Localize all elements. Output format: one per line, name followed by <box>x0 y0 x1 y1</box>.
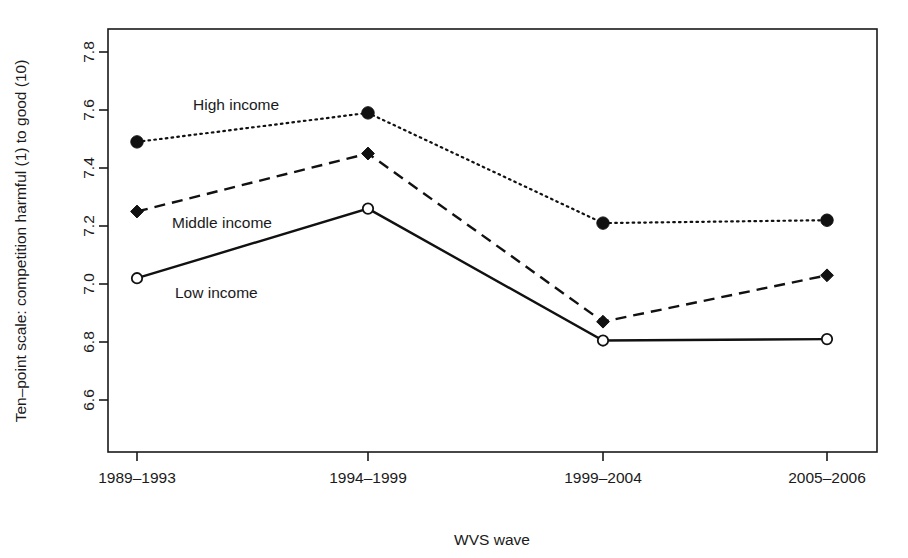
plot-area-border <box>108 29 877 452</box>
y-axis-ticks: 6.66.87.07.27.47.67.8 <box>80 41 109 411</box>
data-point-filled-diamond <box>131 205 144 218</box>
x-tick-label: 1994–1999 <box>329 469 407 486</box>
y-tick-label: 7.6 <box>80 99 97 121</box>
series-label: Middle income <box>172 214 272 231</box>
data-point-open-circle <box>598 335 608 345</box>
y-tick-label: 6.8 <box>80 331 97 353</box>
y-axis-title: Ten–point scale: competition harmful (1)… <box>12 60 29 423</box>
data-point-open-circle <box>132 273 142 283</box>
y-tick-label: 7.0 <box>80 273 97 295</box>
y-tick-label: 7.8 <box>80 41 97 63</box>
series-label: Low income <box>175 284 258 301</box>
data-point-filled-circle <box>597 217 609 229</box>
data-point-filled-diamond <box>597 315 610 328</box>
x-tick-label: 1989–1993 <box>98 469 176 486</box>
line-chart-canvas: 6.66.87.07.27.47.67.8 1989–19931994–1999… <box>0 0 908 558</box>
x-tick-label: 1999–2004 <box>564 469 642 486</box>
data-point-open-circle <box>822 334 832 344</box>
y-tick-label: 6.6 <box>80 389 97 411</box>
data-point-open-circle <box>363 203 373 213</box>
x-axis-title: WVS wave <box>454 531 530 548</box>
data-point-filled-circle <box>131 136 143 148</box>
chart-figure: 6.66.87.07.27.47.67.8 1989–19931994–1999… <box>0 0 908 558</box>
y-tick-label: 7.4 <box>80 157 97 179</box>
y-tick-label: 7.2 <box>80 215 97 237</box>
x-axis-ticks: 1989–19931994–19991999–20042005–2006 <box>98 452 866 486</box>
series-line <box>137 113 827 223</box>
x-tick-label: 2005–2006 <box>788 469 866 486</box>
data-point-filled-diamond <box>821 269 834 282</box>
data-point-filled-circle <box>821 214 833 226</box>
data-point-filled-circle <box>362 107 374 119</box>
series-label: High income <box>193 96 279 113</box>
